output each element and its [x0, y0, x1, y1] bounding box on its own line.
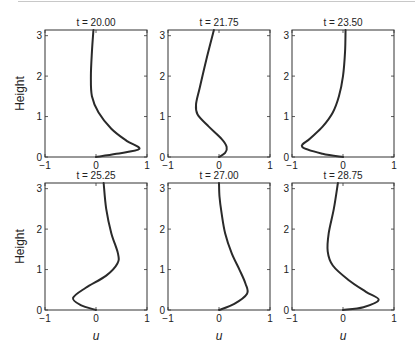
y-tick-label: 2 [283, 71, 289, 82]
subplot-title: t = 25.25 [76, 170, 116, 181]
velocity-profile-line [219, 183, 248, 310]
y-tick-label: 1 [283, 264, 289, 275]
y-axis-label: Height [13, 228, 27, 263]
y-tick-label: 2 [159, 224, 165, 235]
velocity-profile-line [196, 30, 227, 157]
y-tick-label: 0 [159, 305, 165, 316]
axes-frame [45, 183, 147, 310]
y-tick-label: 3 [283, 30, 289, 41]
velocity-profile-line [327, 183, 378, 310]
x-tick-label: 1 [267, 160, 273, 171]
subplot-title: t = 21.75 [199, 17, 239, 28]
x-tick-label: 1 [391, 313, 397, 324]
y-tick-label: 1 [36, 264, 42, 275]
axes-frame [292, 30, 394, 157]
x-tick-label: 1 [391, 160, 397, 171]
y-tick-label: 0 [159, 152, 165, 163]
y-tick-label: 0 [36, 152, 42, 163]
y-axis-label: Height [13, 75, 27, 110]
subplot-2: t = 21.75−1010123 [159, 17, 273, 171]
y-tick-label: 3 [36, 30, 42, 41]
y-tick-label: 3 [36, 183, 42, 194]
axes-frame [168, 30, 270, 157]
subplot-3: t = 23.50−1010123 [283, 17, 397, 171]
y-tick-label: 0 [36, 305, 42, 316]
y-tick-label: 0 [283, 305, 289, 316]
x-axis-label: u [340, 329, 347, 343]
x-tick-label: 1 [144, 160, 150, 171]
subplot-1: t = 20.00−1010123Height [13, 17, 150, 171]
axes-frame [45, 30, 147, 157]
x-tick-label: 1 [267, 313, 273, 324]
subplot-4: t = 25.25−1010123Heightu [13, 170, 150, 343]
velocity-profile-line [91, 30, 140, 157]
y-tick-label: 0 [283, 152, 289, 163]
x-tick-label: 0 [216, 313, 222, 324]
velocity-profile-line [302, 30, 346, 157]
subplot-title: t = 28.75 [323, 170, 363, 181]
subplot-5: t = 27.00−1010123u [159, 170, 273, 343]
y-tick-label: 2 [36, 224, 42, 235]
subplot-title: t = 27.00 [199, 170, 239, 181]
y-tick-label: 1 [159, 264, 165, 275]
y-tick-label: 1 [159, 111, 165, 122]
velocity-profile-line [73, 183, 119, 310]
y-tick-label: 2 [283, 224, 289, 235]
x-axis-label: u [93, 329, 100, 343]
figure-canvas: t = 20.00−1010123Heightt = 21.75−1010123… [0, 0, 415, 353]
x-tick-label: 1 [144, 313, 150, 324]
x-tick-label: 0 [340, 313, 346, 324]
x-axis-label: u [216, 329, 223, 343]
y-tick-label: 1 [283, 111, 289, 122]
subplot-6: t = 28.75−1010123u [283, 170, 397, 343]
x-tick-label: 0 [93, 313, 99, 324]
y-tick-label: 3 [283, 183, 289, 194]
subplot-title: t = 23.50 [323, 17, 363, 28]
y-tick-label: 2 [159, 71, 165, 82]
y-tick-label: 3 [159, 30, 165, 41]
y-tick-label: 1 [36, 111, 42, 122]
y-tick-label: 2 [36, 71, 42, 82]
axes-frame [168, 183, 270, 310]
axes-frame [292, 183, 394, 310]
y-tick-label: 3 [159, 183, 165, 194]
subplot-title: t = 20.00 [76, 17, 116, 28]
